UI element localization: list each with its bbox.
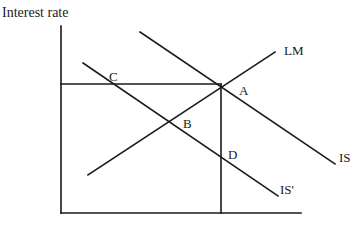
is-curve (140, 32, 335, 164)
point-c-label: C (109, 69, 118, 84)
y-axis-label: Interest rate (2, 5, 68, 20)
is-prime-label: IS' (280, 182, 294, 197)
point-a-label: A (239, 83, 249, 98)
point-b-label: B (183, 116, 192, 131)
lm-label: LM (284, 43, 304, 58)
is-lm-diagram: Interest rate LM IS IS' A B C D (0, 0, 358, 225)
point-d-label: D (228, 147, 237, 162)
is-label: IS (339, 150, 351, 165)
